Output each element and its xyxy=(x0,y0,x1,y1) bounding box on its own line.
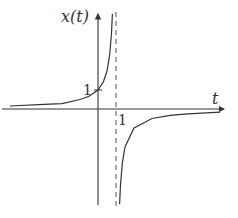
y-axis-label: x(t) xyxy=(61,7,89,26)
x-tick-label-1: 1 xyxy=(118,112,127,128)
y-tick-label-1: 1 xyxy=(83,82,92,98)
function-plot: x(t) t 1 1 xyxy=(0,0,238,218)
x-axis-label: t xyxy=(212,89,219,108)
curve-left-branch xyxy=(10,14,112,106)
curve-right-branch xyxy=(120,112,220,204)
